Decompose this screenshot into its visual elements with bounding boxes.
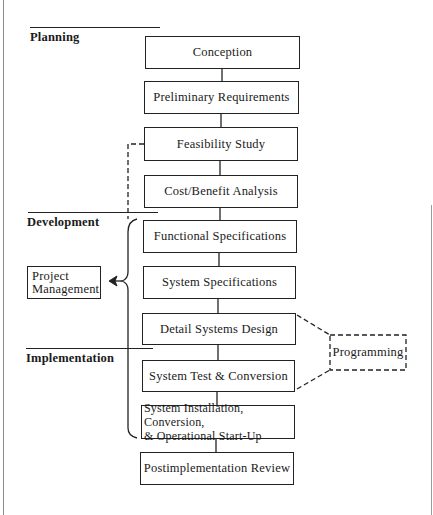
step-label: System Test & Conversion bbox=[149, 370, 288, 383]
step-system-specifications: System Specifications bbox=[143, 266, 296, 299]
implementation-rule bbox=[26, 348, 153, 349]
step-label: System Specifications bbox=[162, 276, 277, 289]
programming-box: Programming bbox=[331, 336, 405, 369]
phase-label-implementation: Implementation bbox=[26, 351, 114, 366]
step-functional-specifications: Functional Specifications bbox=[143, 220, 297, 253]
project-management-box: Project Management bbox=[27, 266, 101, 299]
phase-label-development: Development bbox=[27, 215, 99, 230]
step-label: Postimplementation Review bbox=[144, 462, 290, 475]
step-system-installation: System Installation, Conversion, & Opera… bbox=[141, 405, 295, 439]
step-cost-benefit-analysis: Cost/Benefit Analysis bbox=[144, 175, 298, 208]
project-management-label: Project Management bbox=[32, 270, 99, 296]
step-postimplementation-review: Postimplementation Review bbox=[140, 452, 294, 485]
planning-rule bbox=[30, 27, 160, 28]
feasibility-dashed-link bbox=[128, 144, 144, 219]
phase-label-planning: Planning bbox=[30, 30, 80, 45]
project-management-brace bbox=[122, 219, 137, 438]
step-label: Feasibility Study bbox=[177, 138, 265, 151]
programming-dashed-link-top bbox=[297, 315, 330, 335]
programming-label: Programming bbox=[333, 346, 404, 359]
step-label: System Installation, Conversion, & Opera… bbox=[144, 401, 294, 443]
step-feasibility-study: Feasibility Study bbox=[144, 127, 298, 161]
step-detail-systems-design: Detail Systems Design bbox=[142, 313, 296, 345]
step-label: Conception bbox=[193, 46, 253, 59]
step-system-test-conversion: System Test & Conversion bbox=[142, 360, 295, 392]
step-label: Cost/Benefit Analysis bbox=[164, 185, 278, 198]
programming-dashed-link-bottom bbox=[297, 370, 330, 389]
step-preliminary-requirements: Preliminary Requirements bbox=[144, 81, 299, 114]
step-label: Detail Systems Design bbox=[160, 323, 278, 336]
step-conception: Conception bbox=[145, 36, 300, 69]
development-rule bbox=[28, 212, 158, 213]
step-label: Preliminary Requirements bbox=[153, 91, 289, 104]
step-label: Functional Specifications bbox=[154, 230, 286, 243]
